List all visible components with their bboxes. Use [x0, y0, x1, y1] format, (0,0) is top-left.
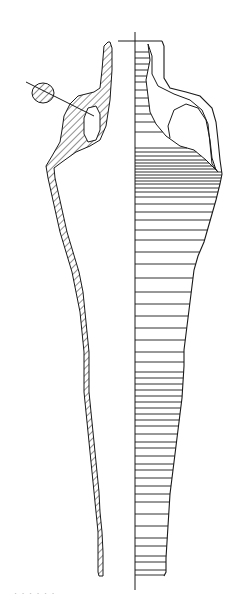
handle-cross-section	[32, 83, 54, 103]
wall-section-hatched	[46, 42, 112, 576]
handle-inner-contour	[148, 44, 218, 172]
neck-contour	[146, 44, 218, 172]
handle-opening	[84, 106, 100, 142]
caption-fragment: · · · · · ·	[14, 589, 214, 598]
exterior-profile-outline	[162, 41, 222, 576]
amphora-drawing	[0, 0, 241, 598]
